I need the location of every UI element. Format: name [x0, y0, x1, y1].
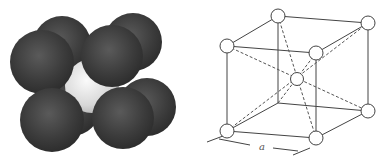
corner-atom-node-front-top-right: [309, 46, 323, 60]
corner-atom-front-top-left: [10, 30, 74, 94]
unit-cell-diagram: a: [195, 0, 390, 163]
corner-atom-node-back-bottom-right: [361, 104, 375, 118]
cube-edge: [227, 46, 316, 53]
corner-atom-node-back-top-right: [361, 16, 375, 30]
corner-atom-node-front-bottom-left: [220, 124, 234, 138]
cube-edge: [227, 103, 278, 131]
corner-atom-node-front-top-left: [220, 39, 234, 53]
cube-edge: [227, 131, 316, 138]
dimension-tick-right: [293, 148, 310, 155]
cube-edge: [316, 111, 368, 138]
cube-edge: [278, 103, 368, 111]
bcc-ball-and-stick-model: a: [195, 0, 390, 163]
cube-edge: [316, 23, 368, 53]
corner-atom-node-front-bottom-right: [309, 131, 323, 145]
center-atom-node: [291, 73, 304, 86]
dimension-line-right: [273, 148, 298, 151]
dimension-line-left: [219, 139, 250, 145]
sphere-packing-illustration: [0, 0, 195, 163]
corner-atom-front-top-right: [81, 25, 143, 87]
lattice-constant-label: a: [259, 141, 265, 152]
cube-edge: [227, 16, 278, 46]
corner-atom-front-bottom-left: [20, 88, 84, 152]
corner-atom-node-back-top-left: [271, 9, 285, 23]
cube-edge: [278, 16, 368, 23]
corner-atom-front-bottom-right: [92, 87, 154, 149]
bcc-space-filling-model: [0, 0, 195, 163]
